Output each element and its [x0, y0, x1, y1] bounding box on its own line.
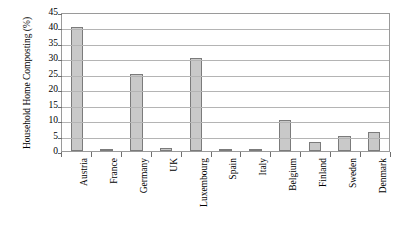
x-axis-label-slot: Finland [300, 158, 330, 228]
y-axis-tick-mark [58, 29, 62, 30]
x-axis-tick-marks [61, 152, 390, 157]
y-axis-tick-mark [58, 45, 62, 46]
gridline [62, 45, 389, 46]
x-axis-tick-label: Denmark [379, 158, 389, 193]
y-axis-tick-label: 40 [40, 24, 58, 34]
bar [219, 149, 231, 151]
x-axis-label-slot: France [91, 158, 121, 228]
x-axis-label-slot: Denmark [360, 158, 390, 228]
bar-slot [151, 14, 181, 151]
y-axis-tick-mark [58, 122, 62, 123]
bar [368, 132, 380, 151]
x-axis-tick-mark [121, 152, 122, 157]
gridline [62, 29, 389, 30]
x-axis-label-slot: Spain [211, 158, 241, 228]
bar-slot [121, 14, 151, 151]
x-axis-label-slot: Italy [240, 158, 270, 228]
y-axis-tick-label: 0 [40, 147, 58, 157]
bar [130, 74, 142, 151]
x-axis-tick-mark [181, 152, 182, 157]
y-axis-tick-label: 15 [40, 101, 58, 111]
gridline [62, 60, 389, 61]
x-axis-label-slot: Luxembourg [181, 158, 211, 228]
x-axis-tick-label: Italy [259, 158, 269, 175]
x-axis-tick-mark [151, 152, 152, 157]
bar-slot [240, 14, 270, 151]
gridline [62, 107, 389, 108]
bar-slot [181, 14, 211, 151]
x-axis-tick-mark [270, 152, 271, 157]
x-axis-label-slot: Austria [61, 158, 91, 228]
bar-slot [359, 14, 389, 151]
y-axis-tick-labels: 454035302520151050 [40, 7, 58, 155]
y-axis-tick-mark [58, 14, 62, 15]
x-axis-tick-mark [300, 152, 301, 157]
x-axis-tick-label: Luxembourg [200, 158, 210, 207]
bar-series [62, 14, 389, 151]
bar [100, 149, 112, 151]
bar-slot [330, 14, 360, 151]
x-axis-label-slot: Belgium [270, 158, 300, 228]
x-axis-label-slot: Sweden [330, 158, 360, 228]
x-axis-tick-label: Belgium [289, 158, 299, 191]
x-axis-label-slot: Germany [121, 158, 151, 228]
bar-slot [92, 14, 122, 151]
y-axis-tick-label: 25 [40, 70, 58, 80]
y-axis-tick-mark [58, 107, 62, 108]
gridline [62, 76, 389, 77]
plot-area [61, 13, 390, 152]
bar [160, 148, 172, 151]
x-axis-tick-mark [211, 152, 212, 157]
bar-slot [62, 14, 92, 151]
y-axis-tick-mark [58, 138, 62, 139]
x-axis-tick-mark [240, 152, 241, 157]
x-axis-tick-label: France [110, 158, 120, 184]
bar [279, 120, 291, 151]
y-axis-tick-label: 45 [40, 8, 58, 18]
x-axis-category-labels: AustriaFranceGermanyUKLuxembourgSpainIta… [61, 158, 390, 228]
x-axis-tick-mark [330, 152, 331, 157]
x-axis-tick-label: Austria [80, 158, 90, 186]
x-axis-tick-label: Sweden [349, 158, 359, 188]
bar-slot [300, 14, 330, 151]
x-axis-tick-label: Spain [229, 158, 239, 180]
y-axis-tick-label: 10 [40, 116, 58, 126]
y-axis-tick-mark [58, 91, 62, 92]
y-axis-title: Household Home Composting (%) [18, 8, 36, 158]
chart-figure: Household Home Composting (%) 4540353025… [0, 0, 418, 230]
y-axis-tick-label: 35 [40, 39, 58, 49]
x-axis-tick-mark [360, 152, 361, 157]
bar [71, 27, 83, 151]
x-axis-tick-label: UK [170, 158, 180, 172]
bar [249, 149, 261, 151]
gridline [62, 122, 389, 123]
gridline [62, 138, 389, 139]
x-axis-tick-label: Finland [319, 158, 329, 187]
x-axis-label-slot: UK [151, 158, 181, 228]
y-axis-tick-label: 30 [40, 55, 58, 65]
bar-slot [211, 14, 241, 151]
x-axis-tick-label: Germany [140, 158, 150, 193]
y-axis-tick-label: 20 [40, 85, 58, 95]
gridline [62, 91, 389, 92]
y-axis-tick-mark [58, 60, 62, 61]
bar [309, 142, 321, 151]
y-axis-tick-mark [58, 76, 62, 77]
y-axis-tick-label: 5 [40, 132, 58, 142]
y-axis-title-text: Household Home Composting (%) [22, 17, 32, 149]
x-axis-tick-mark [61, 152, 62, 157]
x-axis-tick-mark [91, 152, 92, 157]
x-axis-tick-mark [390, 152, 391, 157]
bar-slot [270, 14, 300, 151]
